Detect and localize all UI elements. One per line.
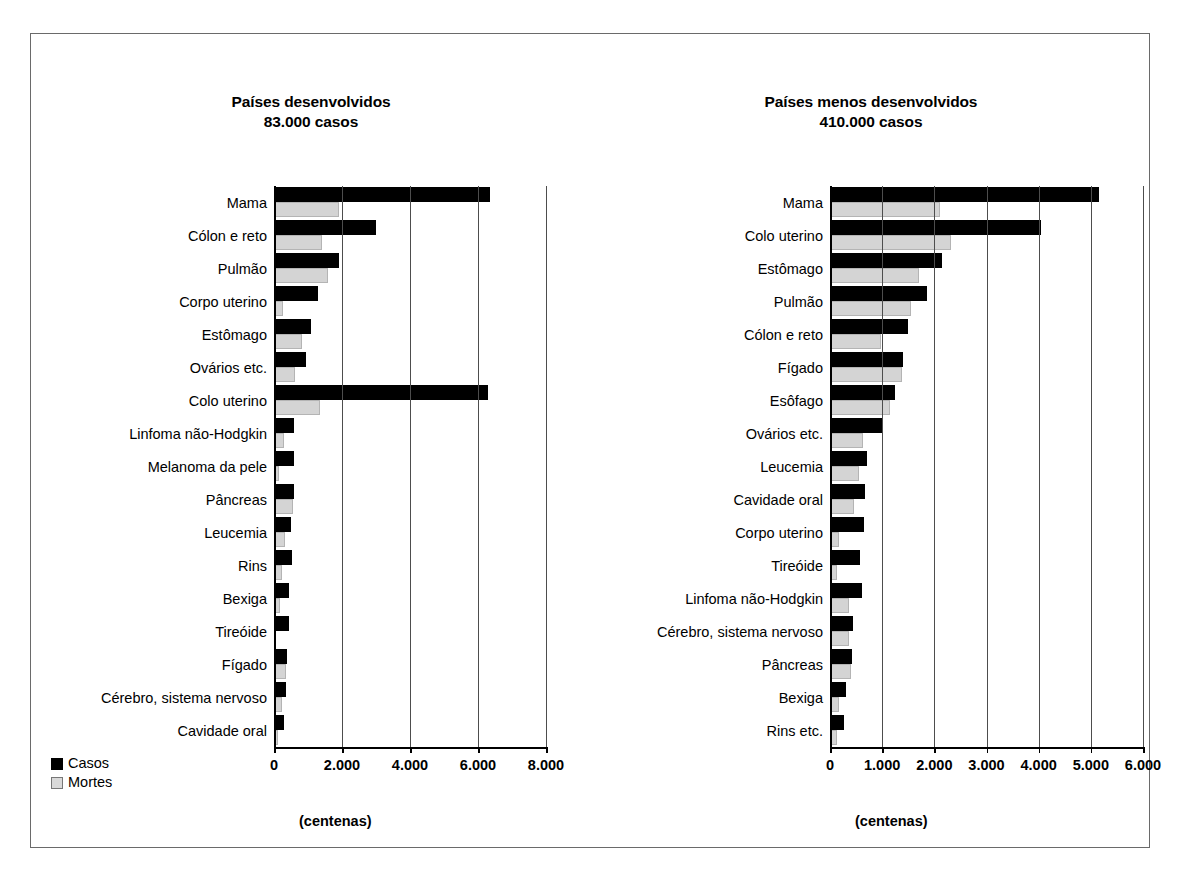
- panel-title-developed: Países desenvolvidos 83.000 casos: [31, 92, 591, 133]
- category-label: Corpo uterino: [735, 525, 823, 540]
- bar-deaths: [830, 202, 940, 217]
- gridline: [410, 186, 411, 747]
- category-label: Rins etc.: [767, 723, 823, 738]
- category-label: Cavidade oral: [734, 492, 823, 507]
- category-label: Cólon e reto: [188, 228, 267, 243]
- legend-swatch-cases-icon: [51, 758, 63, 770]
- bar-cases: [274, 418, 294, 433]
- bar-deaths: [274, 400, 320, 415]
- x-tick: [882, 747, 884, 753]
- units-label-less-developed: (centenas): [855, 813, 928, 829]
- bar-deaths: [830, 235, 951, 250]
- figure-frame: Países desenvolvidos 83.000 casos MamaCó…: [30, 33, 1150, 848]
- category-label: Estômago: [758, 261, 823, 276]
- x-tick-label: 6.000: [460, 757, 496, 773]
- category-label: Mama: [227, 195, 267, 210]
- category-label: Tireóide: [771, 558, 823, 573]
- gridline: [987, 186, 988, 747]
- x-tick: [1039, 747, 1041, 753]
- category-label: Bexiga: [223, 591, 267, 606]
- panel-developed-countries: Países desenvolvidos 83.000 casos MamaCó…: [31, 34, 591, 847]
- bar-deaths: [274, 235, 322, 250]
- bar-deaths: [274, 367, 295, 382]
- category-label: Leucemia: [204, 525, 267, 540]
- bar-deaths: [830, 301, 911, 316]
- bar-cases: [274, 286, 318, 301]
- x-tick-label: 1.000: [864, 757, 900, 773]
- category-label: Linfoma não-Hodgkin: [685, 591, 823, 606]
- x-tick: [546, 747, 548, 753]
- category-label: Colo uterino: [189, 393, 267, 408]
- legend: Casos Mortes: [51, 754, 112, 792]
- panel-title-developed-line2: 83.000 casos: [31, 112, 591, 132]
- category-label: Corpo uterino: [179, 294, 267, 309]
- x-tick-label: 3.000: [968, 757, 1004, 773]
- x-tick: [987, 747, 989, 753]
- category-label: Cólon e reto: [744, 327, 823, 342]
- x-tick: [1143, 747, 1145, 753]
- legend-item-cases: Casos: [51, 754, 112, 773]
- category-label: Colo uterino: [745, 228, 823, 243]
- plot-area-developed: MamaCólon e retoPulmãoCorpo uterinoEstôm…: [274, 186, 546, 747]
- y-axis-line-developed: [274, 186, 276, 747]
- category-label: Estômago: [202, 327, 267, 342]
- bar-cases: [830, 550, 860, 565]
- x-tick: [1091, 747, 1093, 753]
- bar-cases: [830, 451, 867, 466]
- bar-cases: [274, 682, 286, 697]
- bar-cases: [830, 286, 927, 301]
- panel-title-less-developed-line1: Países menos desenvolvidos: [765, 93, 978, 110]
- x-tick-label: 0: [826, 757, 834, 773]
- bar-cases: [274, 319, 311, 334]
- x-tick-label: 5.000: [1073, 757, 1109, 773]
- bar-cases: [274, 649, 287, 664]
- category-label: Pâncreas: [762, 657, 823, 672]
- x-tick-label: 4.000: [1021, 757, 1057, 773]
- x-tick: [410, 747, 412, 753]
- bar-deaths: [830, 631, 849, 646]
- category-label: Pâncreas: [206, 492, 267, 507]
- legend-item-deaths: Mortes: [51, 773, 112, 792]
- bar-deaths: [274, 664, 286, 679]
- bar-cases: [830, 517, 864, 532]
- gridline: [1091, 186, 1092, 747]
- bar-deaths: [830, 400, 890, 415]
- bar-cases: [274, 352, 306, 367]
- gridline: [934, 186, 935, 747]
- category-label: Fígado: [222, 657, 267, 672]
- bar-cases: [274, 583, 289, 598]
- legend-swatch-deaths-icon: [51, 777, 63, 789]
- panel-title-less-developed-line2: 410.000 casos: [591, 112, 1151, 132]
- plot-area-less-developed: MamaColo uterinoEstômagoPulmãoCólon e re…: [830, 186, 1143, 747]
- x-tick-label: 8.000: [528, 757, 564, 773]
- gridline: [1039, 186, 1040, 747]
- bar-cases: [830, 715, 844, 730]
- gridline: [342, 186, 343, 747]
- x-tick: [830, 747, 832, 753]
- gridline: [882, 186, 883, 747]
- legend-label-deaths: Mortes: [68, 773, 112, 792]
- bar-cases: [830, 484, 865, 499]
- category-label: Cérebro, sistema nervoso: [101, 690, 267, 705]
- bar-cases: [274, 550, 292, 565]
- category-label: Ovários etc.: [190, 360, 267, 375]
- bar-cases: [274, 517, 291, 532]
- y-axis-line-less-developed: [830, 186, 832, 747]
- category-label: Cavidade oral: [178, 723, 267, 738]
- category-label: Ovários etc.: [746, 426, 823, 441]
- category-label: Melanoma da pele: [148, 459, 267, 474]
- bar-cases: [830, 352, 903, 367]
- bar-cases: [830, 616, 853, 631]
- gridline: [478, 186, 479, 747]
- bar-cases: [274, 253, 339, 268]
- bar-cases: [830, 583, 862, 598]
- category-label: Esôfago: [770, 393, 823, 408]
- bar-deaths: [830, 499, 854, 514]
- panel-title-developed-line1: Países desenvolvidos: [231, 93, 390, 110]
- bar-cases: [274, 385, 488, 400]
- bar-deaths: [274, 499, 293, 514]
- bar-deaths: [830, 466, 859, 481]
- bar-deaths: [274, 202, 339, 217]
- gridline: [546, 186, 547, 747]
- bar-deaths: [274, 532, 285, 547]
